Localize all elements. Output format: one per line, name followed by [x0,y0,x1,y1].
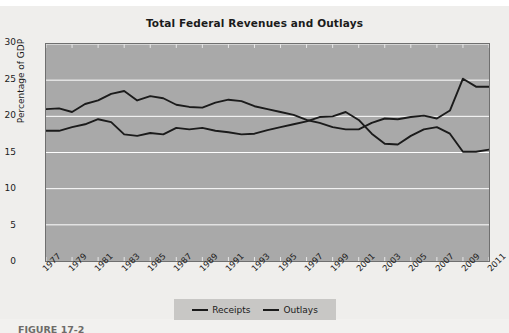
chart-card: Total Federal Revenues and Outlays Perce… [0,6,509,319]
series-line-receipts [46,112,489,152]
y-tick-label: 0 [0,257,16,266]
y-tick-label: 30 [0,38,16,47]
figure-container: Total Federal Revenues and Outlays Perce… [0,0,509,333]
figure-caption: FIGURE 17-2 [18,324,488,333]
y-tick-label: 20 [0,111,16,120]
plot-svg [46,44,489,261]
series-line-outlays [46,79,489,130]
chart-legend: Receipts Outlays [174,299,336,320]
plot-area [45,43,490,262]
legend-label-receipts: Receipts [212,305,250,315]
chart-title: Total Federal Revenues and Outlays [0,17,509,29]
legend-label-outlays: Outlays [283,305,317,315]
legend-item-outlays: Outlays [263,305,317,315]
gridlines [46,44,489,225]
y-tick-label: 10 [0,184,16,193]
y-tick-label: 25 [0,75,16,84]
y-tick-label: 5 [0,221,16,230]
legend-item-receipts: Receipts [192,305,250,315]
legend-line-icon [263,309,279,311]
legend-line-icon [192,309,208,311]
series-lines [46,79,489,152]
y-tick-label: 15 [0,148,16,157]
y-axis-title: Percentage of GDP [16,6,26,156]
